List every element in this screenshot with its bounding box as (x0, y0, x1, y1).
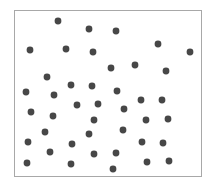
data-point-7 (187, 49, 194, 56)
data-point-10 (163, 68, 170, 75)
data-point-27 (42, 129, 49, 136)
data-point-6 (155, 41, 162, 48)
data-point-25 (143, 117, 150, 124)
data-point-35 (91, 151, 98, 158)
data-point-24 (91, 117, 98, 124)
data-point-30 (25, 139, 32, 146)
data-point-38 (68, 161, 75, 168)
data-point-9 (132, 62, 139, 69)
data-point-17 (138, 97, 145, 104)
data-point-37 (24, 160, 31, 167)
data-point-14 (89, 83, 96, 90)
data-point-28 (86, 131, 93, 138)
data-point-11 (44, 74, 51, 81)
plot-frame (15, 11, 202, 177)
data-point-34 (47, 149, 54, 156)
data-point-20 (74, 102, 81, 109)
data-point-4 (63, 46, 70, 53)
data-point-15 (51, 92, 58, 99)
data-point-0 (55, 18, 62, 25)
data-point-39 (110, 166, 117, 173)
data-point-22 (121, 106, 128, 113)
data-point-8 (108, 65, 115, 72)
data-point-13 (68, 82, 75, 89)
data-point-21 (95, 101, 102, 108)
data-point-16 (114, 88, 121, 95)
data-point-26 (165, 116, 172, 123)
data-point-12 (23, 89, 30, 96)
data-point-32 (139, 139, 146, 146)
data-point-18 (159, 97, 166, 104)
data-point-31 (69, 141, 76, 148)
data-point-40 (144, 159, 151, 166)
data-point-41 (166, 158, 173, 165)
data-point-29 (120, 127, 127, 134)
data-point-19 (28, 109, 35, 116)
data-point-1 (86, 26, 93, 33)
scatter-plot (0, 0, 210, 188)
data-point-23 (50, 113, 57, 120)
data-point-2 (113, 28, 120, 35)
data-point-36 (113, 150, 120, 157)
data-point-33 (160, 140, 167, 147)
data-point-3 (27, 47, 34, 54)
data-point-5 (90, 49, 97, 56)
